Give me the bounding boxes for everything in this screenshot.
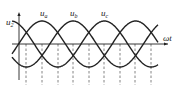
- curve-label-ua: ua: [40, 9, 48, 19]
- waveform-diagram: [0, 0, 183, 98]
- y-axis-label: u2: [6, 18, 14, 28]
- y-axis-arrow-icon: [17, 12, 20, 16]
- curve-label-uc: uc: [101, 9, 108, 19]
- x-axis-label: ωt: [163, 34, 172, 43]
- curve-label-ub: ub: [70, 9, 78, 19]
